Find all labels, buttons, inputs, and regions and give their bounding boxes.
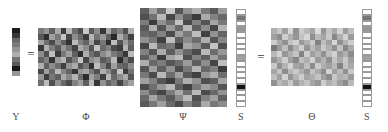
heatmap-grid	[271, 28, 354, 86]
figure-canvas: Y = Φ Ψ S = Θ S	[0, 0, 388, 132]
matrix-phi	[38, 28, 134, 86]
heatmap-cell	[166, 101, 175, 107]
heatmap-cell	[157, 101, 166, 107]
heatmap-cell	[12, 71, 20, 76]
heatmap-grid	[362, 9, 372, 107]
vector-s-right	[362, 9, 372, 107]
heatmap-grid	[12, 28, 20, 76]
equals-sign-left: =	[24, 47, 38, 60]
heatmap-cell	[362, 101, 372, 107]
label-phi: Φ	[70, 112, 102, 122]
heatmap-cell	[128, 80, 134, 86]
matrix-psi	[140, 8, 227, 107]
heatmap-cell	[218, 101, 227, 107]
heatmap-cell	[210, 101, 219, 107]
matrix-y	[12, 28, 20, 76]
heatmap-cell	[348, 80, 354, 86]
equals-sign-right: =	[254, 50, 268, 63]
heatmap-grid	[236, 9, 246, 107]
heatmap-grid	[140, 8, 227, 107]
label-s-left: S	[225, 112, 257, 122]
heatmap-cell	[183, 101, 192, 107]
heatmap-cell	[175, 101, 184, 107]
heatmap-cell	[192, 101, 201, 107]
label-theta: Θ	[296, 112, 328, 122]
heatmap-cell	[140, 101, 149, 107]
heatmap-cell	[149, 101, 158, 107]
label-y: Y	[0, 112, 32, 122]
heatmap-grid	[38, 28, 134, 86]
matrix-theta	[271, 28, 354, 86]
heatmap-cell	[236, 101, 246, 107]
vector-s-left	[236, 9, 246, 107]
heatmap-cell	[201, 101, 210, 107]
label-s-right: S	[351, 112, 383, 122]
label-psi: Ψ	[167, 112, 199, 122]
